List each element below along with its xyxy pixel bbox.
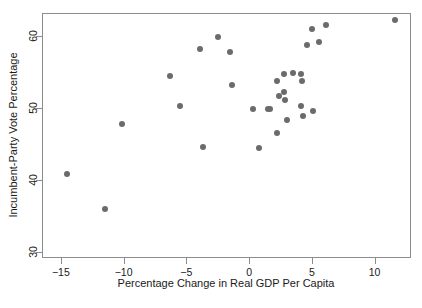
x-tick-mark — [375, 258, 376, 264]
x-tick-mark — [124, 258, 125, 264]
plot-area-frame — [42, 13, 411, 258]
x-tick-mark — [186, 258, 187, 264]
x-tick-label-text: −15 — [52, 266, 70, 278]
x-tick-mark — [249, 258, 250, 264]
x-axis-title-text: Percentage Change in Real GDP Per Capita — [118, 277, 335, 289]
x-tick-mark — [61, 258, 62, 264]
y-tick-label-text: 30 — [27, 246, 39, 258]
x-tick-mark — [312, 258, 313, 264]
x-tick-label-text: 10 — [369, 266, 381, 278]
y-tick-label-text: 60 — [27, 30, 39, 42]
scatter-plot-figure: 30405060−15−10−50510 Incumbent-Party Vot… — [0, 0, 422, 308]
y-axis-title-text: Incumbent-Party Vote Percentage — [7, 52, 19, 217]
y-tick-label-text: 40 — [27, 174, 39, 186]
y-tick-label-text: 50 — [27, 102, 39, 114]
